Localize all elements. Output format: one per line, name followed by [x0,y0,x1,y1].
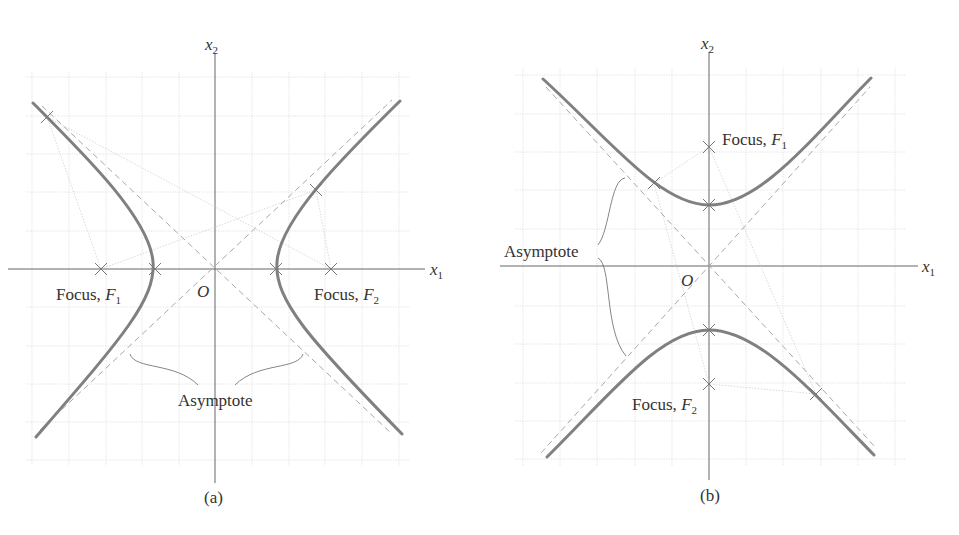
point-markers-b [648,141,822,400]
origin-label-b: O [681,271,693,290]
focal-lines-a [47,117,331,269]
x2-axis-label-a: x2 [204,35,218,56]
point-markers-a [41,111,337,275]
origin-label-a: O [197,282,209,301]
panel-b: x2 x1 O Focus, F1 Focus, F2 Asymptote (b… [500,34,935,505]
caption-b: (b) [700,486,720,505]
x1-axis-label-b: x1 [921,257,935,278]
focus-f1-label-a: Focus, F1 [56,285,121,306]
asymptote-label-a: Asymptote [178,391,253,410]
panel-a: x2 x1 O Focus, F1 Focus, F2 Asymptote (a… [8,35,443,507]
x2-axis-label-b: x2 [700,34,714,55]
caption-a: (a) [204,488,223,507]
asymptote-label-b: Asymptote [504,242,579,261]
focus-f1-label-b: Focus, F1 [722,130,787,151]
hyperbola-figure: x2 x1 O Focus, F1 Focus, F2 Asymptote (a… [0,0,959,535]
asymptote-pointer-a [130,354,303,385]
focus-f2-label-a: Focus, F2 [314,285,379,306]
asymptote-pointer-b [598,178,626,356]
x1-axis-label-a: x1 [429,260,443,281]
focus-f2-label-b: Focus, F2 [632,395,697,416]
focal-lines-b [654,147,816,394]
